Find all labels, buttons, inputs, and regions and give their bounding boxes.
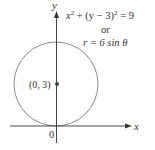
cartesian-equation: x2 + (y − 3)2 = 9 — [65, 9, 134, 22]
y-axis-arrow-icon — [54, 11, 59, 18]
center-label: (0, 3) — [29, 79, 51, 91]
polar-circle-diagram: x y 0 (0, 3) x2 + (y − 3)2 = 9 or r = 6 … — [0, 0, 155, 150]
polar-equation: r = 6 sin θ — [83, 37, 127, 48]
equation-connector: or — [101, 24, 110, 35]
center-dot — [55, 82, 59, 86]
x-axis-arrow-icon — [125, 124, 132, 129]
y-axis-label: y — [51, 0, 57, 11]
origin-label: 0 — [49, 129, 54, 140]
x-axis-label: x — [133, 120, 139, 132]
